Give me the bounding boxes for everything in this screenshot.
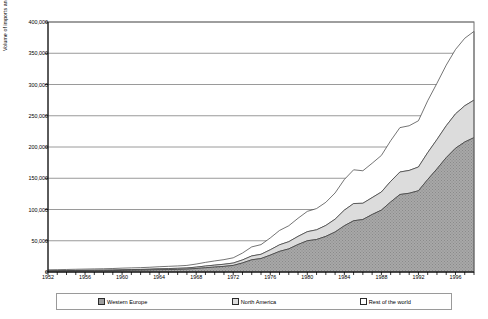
legend-item-western-europe[interactable]: Western Europe xyxy=(57,298,188,305)
legend-label-western-europe: Western Europe xyxy=(107,299,147,305)
area-bands xyxy=(48,31,474,272)
area-chart: Volume of imports and exports (£ million… xyxy=(0,0,488,319)
legend-label-north-america: North America xyxy=(241,299,276,305)
legend-item-rest-of-the-world[interactable]: Rest of the world xyxy=(320,298,451,305)
plot-area xyxy=(0,0,488,319)
legend-item-north-america[interactable]: North America xyxy=(188,298,319,305)
legend-label-rest-of-the-world: Rest of the world xyxy=(369,299,411,305)
legend-swatch-icon-western-europe xyxy=(98,298,105,305)
legend-swatch-icon-north-america xyxy=(232,298,239,305)
legend-swatch-icon-rest-of-the-world xyxy=(360,298,367,305)
chart-legend: Western Europe North America Rest of the… xyxy=(56,293,452,310)
